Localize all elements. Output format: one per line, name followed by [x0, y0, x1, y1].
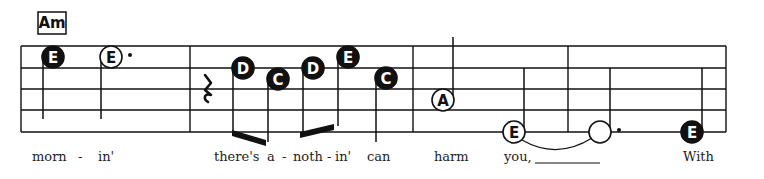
lyric-syllable: in'	[335, 149, 351, 164]
dot	[128, 53, 132, 57]
note-letter: C	[380, 70, 391, 88]
lyric-syllable: harm	[434, 149, 469, 164]
lyric-syllable: can	[367, 149, 391, 164]
note-letter: E	[687, 124, 697, 142]
lyric-syllable: there's	[214, 149, 259, 164]
note-letter: C	[272, 71, 283, 89]
lyric-syllable: With	[683, 149, 715, 164]
note-letter: D	[237, 60, 249, 78]
beam	[300, 124, 334, 138]
lyric-syllable: -	[78, 149, 82, 164]
note-letter: E	[48, 49, 58, 67]
lyric-syllable: noth	[293, 149, 323, 164]
lyric-syllable: morn	[32, 149, 67, 164]
chord-symbol: Am	[38, 14, 65, 32]
lyric-syllable: you,	[503, 149, 532, 164]
note-letter: E	[343, 49, 353, 67]
note-head	[589, 121, 611, 143]
lyric-syllable: -	[327, 149, 331, 164]
note-letter: E	[509, 124, 519, 142]
note-letter: A	[437, 92, 449, 110]
lyric-syllable: a	[267, 149, 275, 164]
tie	[522, 138, 592, 150]
lyric-syllable: -	[282, 149, 286, 164]
note-letter: E	[106, 49, 116, 67]
note-letter: D	[307, 60, 319, 78]
lyric-syllable: in'	[98, 149, 114, 164]
music-score: AmEEDCDECAEEmorn-in'there'sa-noth-in'can…	[0, 0, 764, 179]
dot	[617, 128, 621, 132]
